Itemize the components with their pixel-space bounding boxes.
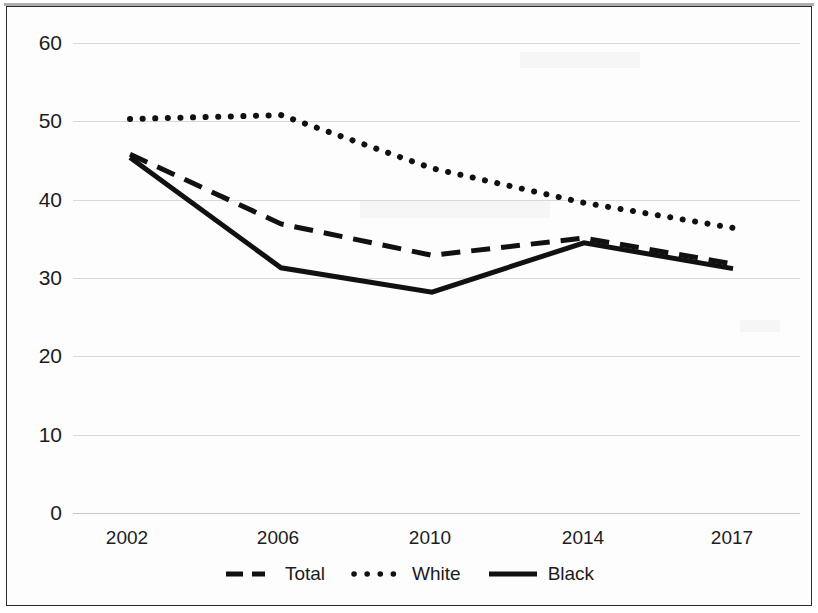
legend-item-black[interactable]: Black <box>487 564 594 583</box>
legend-item-total[interactable]: Total <box>224 564 325 583</box>
legend-swatch-dotted <box>351 567 403 581</box>
legend-item-white[interactable]: White <box>351 564 461 583</box>
legend-label-total: Total <box>285 564 325 583</box>
series-line-total <box>130 154 733 264</box>
series-line-black <box>130 157 733 292</box>
chart-legend: Total White Black <box>0 564 818 583</box>
series-line-white <box>130 115 733 228</box>
legend-swatch-dashed <box>224 567 276 581</box>
chart-figure: 60 50 40 30 20 10 0 2002 2006 2010 2014 … <box>0 0 818 613</box>
legend-swatch-solid <box>487 567 539 581</box>
plot-area: 60 50 40 30 20 10 0 2002 2006 2010 2014 … <box>0 0 818 613</box>
series-layer <box>0 0 818 613</box>
legend-label-black: Black <box>548 564 594 583</box>
legend-label-white: White <box>412 564 461 583</box>
